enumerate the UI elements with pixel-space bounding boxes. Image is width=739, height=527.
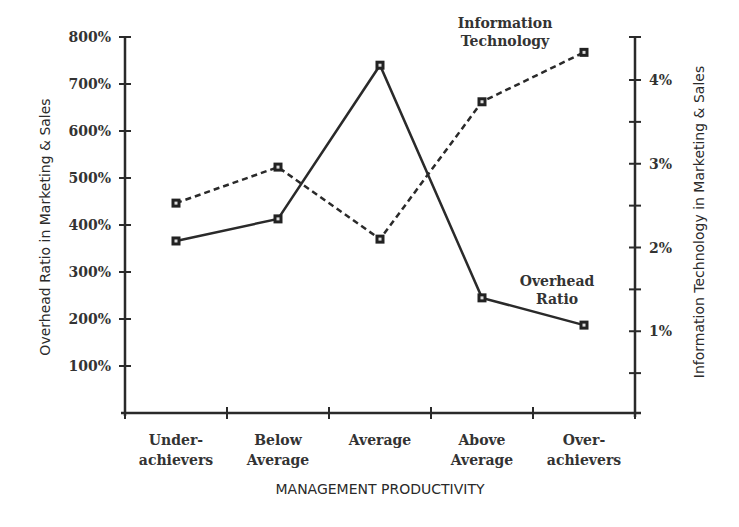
series-overhead-ratio [172, 61, 589, 330]
y-tick-label: 500% [68, 170, 111, 186]
x-category-label: Under- [149, 432, 203, 448]
chart: 100%200%300%400%500%600%700%800%1%2%3%4%… [0, 0, 739, 527]
y2-tick-label: 3% [649, 156, 672, 172]
y-tick-label: 300% [68, 264, 111, 280]
x-axis-title: MANAGEMENT PRODUCTIVITY [275, 481, 484, 497]
x-category-label: achievers [139, 452, 213, 468]
annotation-information-technology: Technology [461, 33, 550, 49]
x-category-label: Above [457, 432, 505, 448]
y-tick-label: 800% [68, 29, 111, 45]
annotation-information-technology: Information [458, 15, 553, 31]
y-tick-label: 100% [68, 358, 111, 374]
annotation-overhead-ratio: Ratio [536, 291, 578, 307]
y2-axis-title: Information Technology in Marketing & Sa… [691, 66, 707, 378]
x-category-label: Average [450, 452, 514, 468]
y-axis-title: Overhead Ratio in Marketing & Sales [37, 98, 53, 355]
y2-tick-label: 1% [649, 323, 672, 339]
x-category-label: Average [348, 432, 412, 448]
series-information-technology [172, 48, 589, 244]
axes [119, 37, 641, 419]
x-category-label: Over- [563, 432, 606, 448]
y-tick-label: 600% [68, 123, 111, 139]
x-category-label: Average [246, 452, 310, 468]
x-category-label: Below [254, 432, 302, 448]
y2-tick-label: 4% [649, 72, 672, 88]
x-category-label: achievers [547, 452, 621, 468]
y-tick-label: 700% [68, 76, 111, 92]
annotation-overhead-ratio: Overhead [520, 273, 595, 289]
y2-tick-label: 2% [649, 240, 672, 256]
y-tick-label: 200% [68, 311, 111, 327]
y-tick-label: 400% [68, 217, 111, 233]
